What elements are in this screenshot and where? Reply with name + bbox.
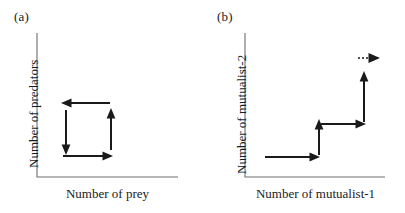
panel-a-y-axis-label: Number of predators [26,60,42,168]
panel-a-right-arrow-up [107,108,116,150]
panel-a-left-arrow-down [62,110,71,155]
panel-a-bottom-arrow-right [63,152,113,161]
panel-a: (a) Number [0,0,202,213]
panel-b-y-axis-label: Number of mutualist-2 [234,55,250,174]
panel-b-step3-arrow-right [321,120,366,129]
panel-b: (b) [203,0,405,213]
panel-a-x-axis-label: Number of prey [37,186,178,202]
panel-b-step1-arrow-right [265,153,320,162]
panel-a-top-arrow-left [61,99,110,108]
panel-b-x-axis-label: Number of mutualist-1 [238,186,393,202]
panel-b-continuation-arrow-right [358,53,380,63]
panel-b-step4-arrow-up [360,71,369,122]
figure-container: (a) Number [0,0,405,213]
